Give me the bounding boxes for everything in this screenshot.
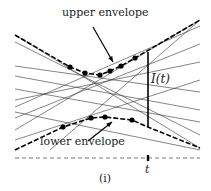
lower-envelope-label: lower envelope bbox=[40, 135, 125, 148]
envelope-vertex-dot bbox=[118, 63, 123, 68]
envelope-vertex-dot bbox=[132, 55, 137, 60]
upper-arrow bbox=[93, 27, 113, 62]
line bbox=[15, 26, 200, 107]
envelope-diagram: upper envelope lower envelope I(t) t (i) bbox=[0, 0, 211, 191]
envelope-vertex-dot bbox=[129, 117, 134, 122]
line bbox=[15, 66, 200, 92]
caption: (i) bbox=[99, 172, 111, 185]
envelope-vertex-dot bbox=[97, 72, 102, 77]
t-tick bbox=[147, 155, 149, 161]
interval-label: I(t) bbox=[151, 72, 170, 86]
envelope-vertex-dot bbox=[60, 124, 65, 129]
envelope-vertex-dot bbox=[102, 114, 107, 119]
envelope-vertex-dot bbox=[67, 64, 72, 69]
envelope-vertex-dot bbox=[107, 68, 112, 73]
t-label: t bbox=[145, 163, 149, 176]
envelope-vertex-dot bbox=[88, 115, 93, 120]
line bbox=[50, 20, 200, 150]
line bbox=[15, 42, 200, 135]
envelope-vertex-dot bbox=[82, 70, 87, 75]
upper-envelope-label: upper envelope bbox=[62, 6, 148, 19]
diagram-canvas bbox=[0, 0, 211, 191]
